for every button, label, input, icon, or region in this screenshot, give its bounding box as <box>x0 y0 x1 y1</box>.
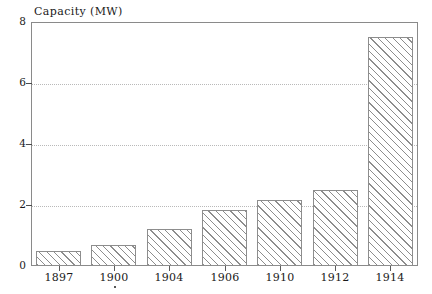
x-tick-label-1910: 1910 <box>250 271 310 284</box>
y-tick-label: 4 <box>4 137 26 149</box>
bar-1897 <box>36 251 81 266</box>
gridline <box>32 206 417 207</box>
y-tick-label: 2 <box>4 198 26 210</box>
gridline <box>32 145 417 146</box>
y-tick-label: 0 <box>4 259 26 271</box>
x-tick-label-1906: 1906 <box>195 271 255 284</box>
gridline <box>32 84 417 85</box>
bar-chart: Capacity (MW) 02468 18971900190419061910… <box>0 0 432 294</box>
bar-1914 <box>368 37 413 266</box>
y-tick-mark <box>26 83 32 84</box>
bar-1904 <box>147 229 192 266</box>
chart-title: Capacity (MW) <box>34 5 123 18</box>
x-tick-label-1914: 1914 <box>360 271 420 284</box>
x-tick-label-1912: 1912 <box>305 271 365 284</box>
bar-1910 <box>257 200 302 266</box>
y-tick-mark <box>26 144 32 145</box>
y-tick-mark <box>26 205 32 206</box>
bar-1900 <box>91 245 136 266</box>
y-tick-label: 6 <box>4 76 26 88</box>
x-tick-label-1904: 1904 <box>139 271 199 284</box>
y-tick-label: 8 <box>4 15 26 27</box>
x-tick-label-1900: 1900 <box>84 271 144 284</box>
bar-1906 <box>202 210 247 266</box>
chart-screenshot: Capacity (MW) 02468 18971900190419061910… <box>0 0 432 294</box>
stray-mark-icon <box>114 286 116 288</box>
bar-1912 <box>313 190 358 266</box>
x-tick-label-1897: 1897 <box>29 271 89 284</box>
